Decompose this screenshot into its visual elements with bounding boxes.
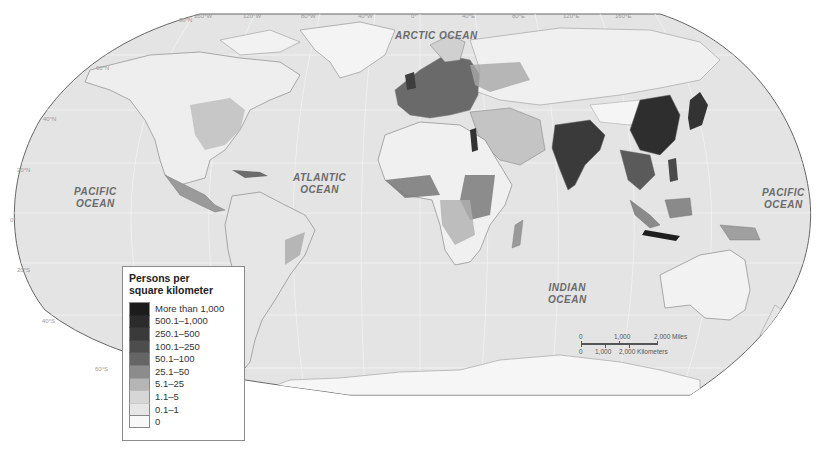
scale-miles-2000: 2,000 Miles: [654, 333, 687, 340]
legend-item: 1.1–5: [129, 390, 238, 403]
scale-tick: [581, 341, 582, 347]
legend-swatch: [129, 340, 150, 353]
lat-label-equator: 0°: [10, 217, 16, 223]
legend-item: 100.1–250: [129, 340, 238, 353]
legend-label: 100.1–250: [155, 341, 200, 352]
arctic-ocean-label: ARCTIC OCEAN: [395, 30, 478, 42]
legend-label: 0: [155, 416, 160, 427]
lon-label-40w: 40°W: [358, 13, 373, 19]
legend-item: More than 1,000: [129, 302, 238, 315]
legend-label: 0.1–1: [155, 404, 179, 415]
legend-swatch: [129, 327, 150, 340]
lat-label-40s: 40°S: [42, 318, 55, 324]
legend-item: 500.1–1,000: [129, 315, 238, 328]
lon-label-80w: 80°W: [301, 13, 316, 19]
lat-label-20s: 20°S: [17, 267, 30, 273]
lat-label-40n: 40°N: [43, 116, 56, 122]
legend-item: 0: [129, 415, 238, 428]
lon-label-80e: 80°E: [512, 13, 525, 19]
legend-swatch: [129, 315, 150, 328]
legend-swatch: [129, 302, 150, 315]
pacific-ocean-west-label: PACIFICOCEAN: [74, 186, 117, 210]
scale-bar: 0 1,000 2,000 Miles 0 1,000 2,000 Kilome…: [581, 333, 721, 361]
legend-swatch: [129, 403, 150, 416]
legend-label: 50.1–100: [155, 353, 195, 364]
lat-label-80n: 80°N: [179, 17, 192, 23]
indian-ocean-label: INDIANOCEAN: [548, 282, 587, 306]
scale-km-2000: 2,000 Kilometers: [619, 348, 668, 355]
legend-swatch: [129, 365, 150, 378]
lat-label-20n: 20°N: [17, 167, 30, 173]
pacific-ocean-east-label: PACIFICOCEAN: [762, 187, 805, 211]
legend-label: More than 1,000: [155, 303, 224, 314]
lon-label-160e: 160°E: [615, 13, 631, 19]
lat-label-60s: 60°S: [95, 366, 108, 372]
legend: Persons per square kilometer More than 1…: [122, 266, 245, 441]
legend-title: Persons per square kilometer: [129, 272, 238, 296]
lat-label-60n: 60°N: [96, 65, 109, 71]
scale-miles-1000: 1,000: [614, 333, 630, 340]
legend-item: 250.1–500: [129, 327, 238, 340]
atlantic-ocean-label: ATLANTICOCEAN: [293, 172, 346, 196]
scale-km-0: 0: [579, 348, 583, 355]
legend-swatch: [129, 352, 150, 365]
legend-swatch: [129, 415, 150, 428]
scale-miles-0: 0: [579, 333, 583, 340]
legend-item: 50.1–100: [129, 352, 238, 365]
scale-km-1000: 1,000: [595, 348, 611, 355]
legend-item: 5.1–25: [129, 378, 238, 391]
lon-label-120e: 120°E: [563, 13, 579, 19]
legend-label: 1.1–5: [155, 391, 179, 402]
legend-swatch: [129, 390, 150, 403]
legend-label: 5.1–25: [155, 378, 184, 389]
legend-label: 500.1–1,000: [155, 315, 208, 326]
scale-tick: [657, 341, 658, 345]
legend-item: 0.1–1: [129, 403, 238, 416]
lon-label-40e: 40°E: [462, 13, 475, 19]
legend-swatch: [129, 378, 150, 391]
lon-label-0: 0°: [411, 13, 417, 19]
legend-label: 25.1–50: [155, 366, 189, 377]
lon-label-120w: 120°W: [243, 13, 261, 19]
legend-label: 250.1–500: [155, 328, 200, 339]
legend-list: More than 1,000500.1–1,000250.1–500100.1…: [129, 302, 238, 428]
lon-label-160w: 160°W: [194, 13, 212, 19]
scale-tick: [619, 341, 620, 345]
legend-item: 25.1–50: [129, 365, 238, 378]
